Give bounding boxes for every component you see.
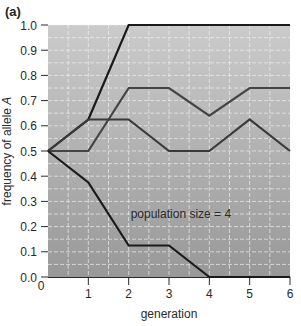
y-tick-label: 0.5 [20, 145, 37, 159]
x-axis-label: generation [141, 307, 198, 321]
y-tick-label: 0.8 [20, 69, 37, 83]
y-tick-label: 0.0 [20, 271, 37, 285]
y-tick-label: 1.0 [20, 19, 37, 33]
x-tick-label: 2 [125, 287, 132, 301]
y-tick-label: 0.9 [20, 44, 37, 58]
x-tick-label: 1 [85, 287, 92, 301]
x-tick-label: 3 [166, 287, 173, 301]
y-tick-label: 0.3 [20, 195, 37, 209]
population-size-annotation: population size = 4 [131, 207, 232, 221]
y-tick-label: 0.7 [20, 94, 37, 108]
y-tick-label: 0.6 [20, 119, 37, 133]
y-tick-label: 0.1 [20, 245, 37, 259]
y-axis-ticks: 0.00.10.20.30.40.50.60.70.80.91.0 [20, 19, 48, 285]
x-tick-label: 0 [38, 279, 45, 293]
x-axis-ticks: 0123456 [38, 277, 294, 301]
x-tick-label: 6 [287, 287, 294, 301]
y-axis-label: frequency of allele A [0, 97, 14, 206]
x-tick-label: 4 [206, 287, 213, 301]
x-tick-label: 5 [246, 287, 253, 301]
y-tick-label: 0.2 [20, 220, 37, 234]
y-tick-label: 0.4 [20, 170, 37, 184]
line-chart: 0.00.10.20.30.40.50.60.70.80.91.0 012345… [0, 0, 301, 326]
